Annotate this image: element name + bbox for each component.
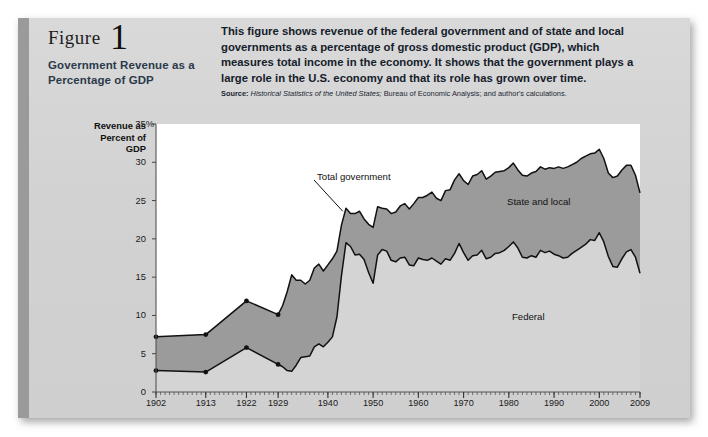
x-axis-tick-label: 1950 <box>351 398 395 408</box>
x-axis-tick-label: 1913 <box>184 398 228 408</box>
x-axis-tick-label: 1970 <box>442 398 486 408</box>
x-axis-tick-label: 1929 <box>256 398 300 408</box>
y-axis-tick-label: 10 <box>116 309 146 320</box>
annotation-federal: Federal <box>512 311 545 322</box>
chart-plot <box>0 0 708 437</box>
y-axis-tick-label: 20 <box>116 233 146 244</box>
federal-marker <box>276 362 281 367</box>
y-axis-tick-label: 25 <box>116 195 146 206</box>
y-axis-tick-label: 0 <box>116 386 146 397</box>
x-axis-tick-label: 1960 <box>396 398 440 408</box>
total-government-marker <box>203 332 208 337</box>
federal-marker <box>244 345 249 350</box>
y-axis-tick-label: 30 <box>116 156 146 167</box>
x-axis-tick-label: 1990 <box>532 398 576 408</box>
total-government-marker <box>244 298 249 303</box>
annotation-total-government: Total government <box>317 171 391 182</box>
total-government-marker <box>276 312 281 317</box>
x-axis-tick-label: 1940 <box>306 398 350 408</box>
federal-marker <box>203 370 208 375</box>
x-axis-tick-label: 1980 <box>487 398 531 408</box>
x-axis-tick-label: 1902 <box>134 398 178 408</box>
y-axis-tick-label: 5 <box>116 348 146 359</box>
x-axis-tick-label: 2009 <box>618 398 662 408</box>
figure-page: Figure 1 Government Revenue as a Percent… <box>0 0 708 437</box>
y-axis-tick-label: 15 <box>116 271 146 282</box>
y-axis-tick-label: 35% <box>120 118 154 129</box>
x-axis-tick-label: 2000 <box>577 398 621 408</box>
chart-svg <box>0 0 708 437</box>
annotation-state-and-local: State and local <box>507 196 570 207</box>
